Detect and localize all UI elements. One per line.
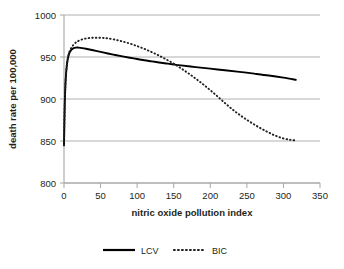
x-tick-label-150: 150	[166, 190, 182, 201]
y-axis-ticks	[60, 15, 64, 183]
x-axis-ticks	[64, 183, 320, 188]
y-tick-label-1000: 1000	[35, 10, 56, 21]
gridlines	[64, 15, 320, 183]
y-tick-label-850: 850	[40, 136, 56, 147]
chart-legend: LCV BIC	[103, 246, 228, 256]
x-tick-label-0: 0	[61, 190, 66, 201]
x-tick-label-350: 350	[312, 190, 328, 201]
series-line-lcv	[64, 48, 296, 146]
series-line-bic	[64, 38, 296, 146]
y-tick-label-900: 900	[40, 94, 56, 105]
x-tick-label-50: 50	[95, 190, 106, 201]
chart-plot-area: 1000 950 900 850 800 0 50 100 150 200 25…	[0, 0, 344, 269]
x-axis-title: nitric oxide pollution index	[132, 207, 254, 218]
chart-figure: 1000 950 900 850 800 0 50 100 150 200 25…	[0, 0, 344, 269]
legend-label-lcv: LCV	[141, 246, 159, 256]
legend-label-bic: BIC	[212, 246, 228, 256]
y-axis-title: death rate per 100,000	[7, 49, 18, 149]
x-tick-label-100: 100	[129, 190, 145, 201]
y-tick-label-950: 950	[40, 52, 56, 63]
x-tick-label-200: 200	[202, 190, 218, 201]
y-tick-label-800: 800	[40, 178, 56, 189]
x-tick-label-300: 300	[275, 190, 291, 201]
x-tick-label-250: 250	[239, 190, 255, 201]
